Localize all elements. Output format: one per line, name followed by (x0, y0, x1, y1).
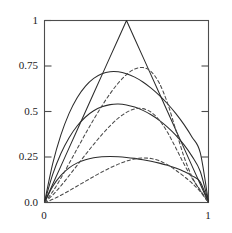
x-tick-label-1: 1 (198, 210, 218, 221)
curve-dashed-inner-0.50 (45, 108, 209, 202)
y-tick-label-025: 0.25 (4, 151, 38, 162)
curve-solid-peak-0.50 (45, 104, 209, 202)
y-axis-ticks-right (202, 66, 209, 157)
y-tick-label-1: 1 (4, 15, 38, 26)
y-tick-label-05: 0.5 (4, 106, 38, 117)
y-tick-label-0: 0.0 (4, 197, 38, 208)
y-tick-label-075: 0.75 (4, 60, 38, 71)
curve-dashed-inner-0.75 (45, 67, 209, 202)
x-tick-label-0: 0 (34, 210, 54, 221)
curve-group (45, 21, 209, 203)
chart-figure: 1 0.75 0.5 0.25 0.0 0 1 (0, 0, 232, 233)
